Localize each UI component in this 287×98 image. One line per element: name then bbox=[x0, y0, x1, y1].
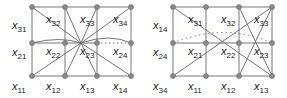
svg-text:x21: x21 bbox=[187, 45, 203, 60]
svg-text:x22: x22 bbox=[220, 45, 236, 60]
svg-text:x11: x11 bbox=[187, 80, 202, 95]
svg-text:x13: x13 bbox=[253, 80, 269, 95]
svg-text:x12: x12 bbox=[220, 80, 236, 95]
right-labels: x14 x24 x34 x11 x12 x13 x31 x32 x33 x21 … bbox=[152, 13, 269, 95]
svg-text:x32: x32 bbox=[45, 13, 61, 28]
svg-text:x33: x33 bbox=[79, 13, 95, 28]
svg-text:x23: x23 bbox=[253, 45, 269, 60]
svg-text:x14: x14 bbox=[152, 19, 168, 34]
svg-text:x24: x24 bbox=[152, 46, 168, 61]
svg-text:x34: x34 bbox=[152, 80, 168, 95]
svg-text:x11: x11 bbox=[11, 80, 26, 95]
svg-text:x33: x33 bbox=[253, 13, 269, 28]
svg-text:x14: x14 bbox=[112, 80, 128, 95]
svg-text:x31: x31 bbox=[11, 19, 27, 34]
left-labels: x31 x21 x11 x12 x13 x14 x32 x33 x34 x22 … bbox=[11, 13, 128, 95]
svg-text:x22: x22 bbox=[45, 45, 61, 60]
svg-text:x12: x12 bbox=[45, 80, 61, 95]
svg-text:x24: x24 bbox=[112, 45, 128, 60]
svg-text:x31: x31 bbox=[187, 13, 203, 28]
svg-text:x32: x32 bbox=[220, 13, 236, 28]
grid-diagrams: x31 x21 x11 x12 x13 x14 x32 x33 x34 x22 … bbox=[0, 0, 287, 98]
svg-text:x13: x13 bbox=[79, 80, 95, 95]
svg-text:x21: x21 bbox=[11, 46, 27, 61]
